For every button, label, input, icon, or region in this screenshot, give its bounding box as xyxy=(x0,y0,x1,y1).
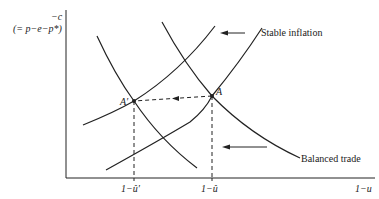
x-axis-label: 1−u xyxy=(355,183,372,194)
x-tick-label-u: 1−û xyxy=(201,183,218,194)
stable-inflation-arrowhead-icon xyxy=(220,31,228,36)
point-a-prime xyxy=(132,99,136,103)
balanced-trade-label: Balanced trade xyxy=(301,153,361,164)
shift-arrowhead-icon xyxy=(172,96,179,101)
point-a-prime-label: A′ xyxy=(120,96,128,107)
balanced-trade-curve-right xyxy=(162,22,300,158)
stable-inflation-label: Stable inflation xyxy=(261,27,322,38)
y-axis-label-sub: (= p−e−p*) xyxy=(13,23,62,34)
stable-inflation-curve-lower xyxy=(106,28,262,170)
point-a-label: A xyxy=(216,86,222,97)
y-axis-label-top: −c xyxy=(51,11,62,22)
balanced-trade-arrowhead-icon xyxy=(222,145,230,150)
point-a xyxy=(210,94,214,98)
x-tick-label-u-prime: 1−û′ xyxy=(121,183,140,194)
